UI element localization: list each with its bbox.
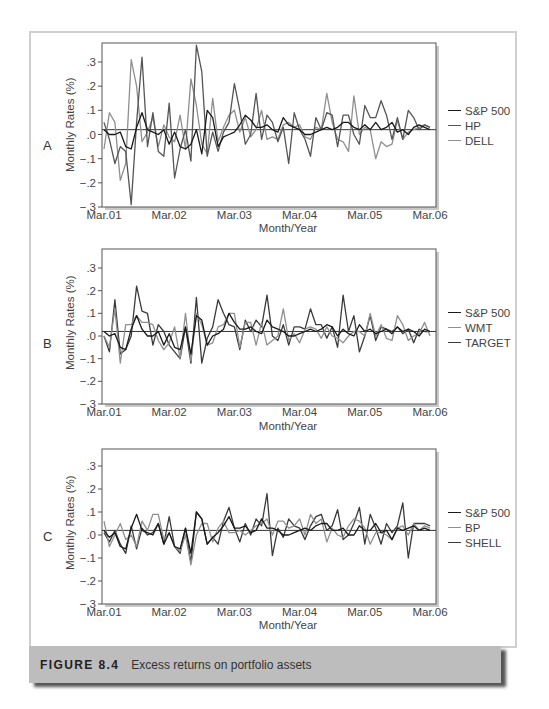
y-tick-label: −.1 [80,353,96,365]
y-tick-label: .2 [86,285,96,297]
x-tick-label: Mar.02 [152,606,187,618]
plot-area [102,249,436,404]
plot-area [102,43,436,207]
x-tick-label: Mar.01 [86,209,121,221]
x-tick-label: Mar.03 [217,606,252,618]
x-tick-label: Mar.05 [347,209,382,221]
y-tick-label: .0 [86,330,96,342]
y-tick-label: −.2 [80,177,96,189]
x-tick-label: Mar.03 [217,406,252,418]
y-tick-label: .3 [86,56,96,68]
x-tick-label: Mar.04 [282,406,318,418]
y-tick-label: .1 [86,506,96,518]
x-tick-label: Mar.02 [152,209,187,221]
plot-b: .3.2.1.0−.1−.2−.3Mar.01Mar.02Mar.03Mar.0… [80,249,448,418]
plots-layer: .3.2.1.0−.1−.2−.3Mar.01Mar.02Mar.03Mar.0… [0,0,549,709]
y-tick-label: .2 [86,483,96,495]
y-tick-label: .1 [86,104,96,116]
x-tick-label: Mar.04 [282,606,318,618]
x-tick-label: Mar.06 [412,606,447,618]
caption-text: Excess returns on portfolio assets [131,658,311,672]
y-tick-label: .3 [86,460,96,472]
x-tick-label: Mar.03 [217,209,252,221]
y-tick-label: −.1 [80,153,96,165]
y-tick-label: .0 [86,529,96,541]
y-tick-label: .3 [86,262,96,274]
y-tick-label: −.2 [80,575,96,587]
x-tick-label: Mar.01 [86,406,121,418]
x-tick-label: Mar.06 [412,406,447,418]
x-tick-label: Mar.02 [152,406,187,418]
y-tick-label: −.2 [80,375,96,387]
plot-a: .3.2.1.0−.1−.2−.3Mar.01Mar.02Mar.03Mar.0… [80,43,448,221]
y-tick-label: −.1 [80,552,96,564]
x-tick-label: Mar.06 [412,209,447,221]
y-tick-label: .2 [86,80,96,92]
x-tick-label: Mar.05 [347,606,382,618]
figure-number: FIGURE 8.4 [40,658,119,672]
x-tick-label: Mar.05 [347,406,382,418]
x-tick-label: Mar.01 [86,606,121,618]
figure-caption: FIGURE 8.4 Excess returns on portfolio a… [29,646,501,683]
y-tick-label: .1 [86,307,96,319]
y-tick-label: .0 [86,129,96,141]
plot-c: .3.2.1.0−.1−.2−.3Mar.01Mar.02Mar.03Mar.0… [80,449,448,618]
x-tick-label: Mar.04 [282,209,318,221]
